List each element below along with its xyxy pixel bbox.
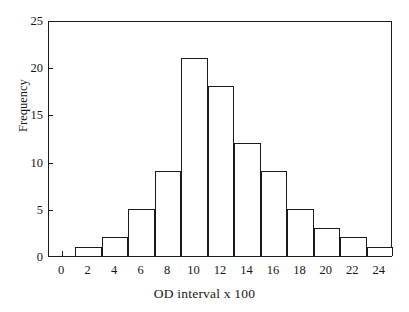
histogram-bar: [340, 237, 366, 256]
y-axis-tick-mark: [48, 68, 53, 69]
x-axis-tick-label: 18: [293, 264, 306, 277]
x-axis-title: OD interval x 100: [0, 286, 409, 302]
histogram-figure: 0510152025 Frequency OD interval x 100 0…: [0, 0, 409, 312]
y-axis-tick-mark: [48, 210, 53, 211]
y-axis-tick-label: 0: [37, 251, 43, 264]
histogram-bar: [181, 58, 207, 256]
y-axis-tick-label: 20: [31, 62, 44, 75]
x-axis-tick-label: 4: [111, 264, 117, 277]
x-axis-tick-label: 12: [214, 264, 227, 277]
histogram-bar: [155, 171, 181, 256]
x-axis-tick-label: 14: [240, 264, 253, 277]
y-axis-title: Frequency: [16, 66, 31, 146]
x-axis-tick-label: 0: [58, 264, 64, 277]
histogram-bar: [261, 171, 287, 256]
y-axis-tick-mark: [48, 163, 53, 164]
x-axis-tick-label: 20: [320, 264, 333, 277]
y-axis-tick-mark: [48, 115, 53, 116]
x-axis-tick-label: 8: [164, 264, 170, 277]
histogram-bar: [208, 86, 234, 256]
y-axis-tick-label: 25: [31, 15, 44, 28]
y-axis-tick-label: 15: [31, 109, 44, 122]
plot-area: [48, 21, 392, 257]
y-axis-tick-label: 10: [31, 156, 44, 169]
histogram-bar: [102, 237, 128, 256]
histogram-bar: [128, 209, 154, 256]
x-axis-tick-label: 6: [137, 264, 143, 277]
x-axis-tick-label: 10: [187, 264, 200, 277]
y-axis-tick-label: 5: [37, 204, 43, 217]
histogram-bar: [287, 209, 313, 256]
x-axis-tick-mark: [62, 251, 63, 256]
x-axis-tick-label: 22: [346, 264, 359, 277]
histogram-bar: [314, 228, 340, 256]
histogram-bar: [367, 247, 393, 256]
bars-layer: [49, 22, 391, 256]
histogram-bar: [75, 247, 101, 256]
histogram-bar: [234, 143, 260, 256]
x-axis-tick-label: 2: [85, 264, 91, 277]
x-axis-tick-label: 16: [267, 264, 280, 277]
x-axis-tick-label: 24: [373, 264, 386, 277]
